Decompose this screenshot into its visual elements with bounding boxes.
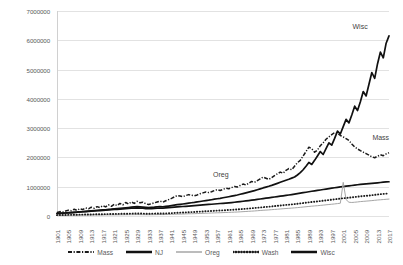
legend-label: Wash xyxy=(262,249,279,256)
annotation-oreg: Oreg xyxy=(213,171,229,178)
x-tick-label: 2001 xyxy=(340,230,347,243)
x-tick-label: 1981 xyxy=(283,230,290,243)
series-line-wash xyxy=(57,193,389,215)
x-tick-label: 1969 xyxy=(249,230,256,243)
legend-item-wisc[interactable]: Wisc xyxy=(291,248,334,256)
annotation-mass: Mass xyxy=(372,134,389,141)
y-axis-labels: 0100000020000003000000400000050000006000… xyxy=(0,0,54,216)
x-tick-label: 1973 xyxy=(260,230,267,243)
legend-swatch-wisc xyxy=(291,248,317,256)
legend-item-nj[interactable]: NJ xyxy=(126,248,163,256)
y-tick-label: 3000000 xyxy=(27,125,50,132)
x-tick-label: 2009 xyxy=(363,230,370,243)
x-tick-label: 1925 xyxy=(123,230,130,243)
x-tick-label: 1997 xyxy=(329,230,336,243)
x-tick-label: 1953 xyxy=(203,230,210,243)
chart-container: 0100000020000003000000400000050000006000… xyxy=(0,0,403,265)
x-tick-label: 1965 xyxy=(237,230,244,243)
legend-swatch-wash xyxy=(233,248,259,256)
x-tick-label: 2013 xyxy=(375,230,382,243)
y-tick-label: 7000000 xyxy=(27,8,50,15)
x-tick-label: 1941 xyxy=(168,230,175,243)
x-tick-label: 2017 xyxy=(386,230,393,243)
x-tick-label: 1961 xyxy=(226,230,233,243)
x-tick-label: 1917 xyxy=(100,230,107,243)
x-tick-label: 1937 xyxy=(157,230,164,243)
annotation-wisc: Wisc xyxy=(352,23,367,30)
legend-item-wash[interactable]: Wash xyxy=(233,248,279,256)
y-tick-label: 1000000 xyxy=(27,183,50,190)
x-axis-labels: 1901190519091913191719211925192919331937… xyxy=(57,217,389,243)
x-tick-label: 1977 xyxy=(272,230,279,243)
legend-swatch-mass xyxy=(68,248,94,256)
legend-label: Mass xyxy=(97,249,113,256)
chart-legend: MassNJOregWashWisc xyxy=(0,243,403,261)
x-tick-label: 1989 xyxy=(306,230,313,243)
x-tick-label: 1921 xyxy=(111,230,118,243)
x-tick-label: 1913 xyxy=(88,230,95,243)
legend-label: NJ xyxy=(155,249,163,256)
x-tick-label: 1933 xyxy=(146,230,153,243)
y-tick-label: 0 xyxy=(47,213,50,220)
legend-item-oreg[interactable]: Oreg xyxy=(176,248,220,256)
y-tick-label: 4000000 xyxy=(27,95,50,102)
series-lines xyxy=(57,11,389,216)
x-tick-label: 1957 xyxy=(214,230,221,243)
x-tick-label: 1993 xyxy=(317,230,324,243)
legend-swatch-oreg xyxy=(176,248,202,256)
x-tick-label: 1929 xyxy=(134,230,141,243)
x-tick-label: 1901 xyxy=(54,230,61,243)
y-tick-label: 6000000 xyxy=(27,37,50,44)
x-tick-label: 2005 xyxy=(352,230,359,243)
y-tick-label: 2000000 xyxy=(27,154,50,161)
legend-item-mass[interactable]: Mass xyxy=(68,248,113,256)
y-tick-label: 5000000 xyxy=(27,66,50,73)
legend-label: Wisc xyxy=(320,249,334,256)
x-tick-label: 1909 xyxy=(77,230,84,243)
legend-label: Oreg xyxy=(205,249,220,256)
legend-swatch-nj xyxy=(126,248,152,256)
x-tick-label: 1949 xyxy=(191,230,198,243)
x-tick-label: 1945 xyxy=(180,230,187,243)
x-tick-label: 1905 xyxy=(65,230,72,243)
x-tick-label: 1985 xyxy=(294,230,301,243)
